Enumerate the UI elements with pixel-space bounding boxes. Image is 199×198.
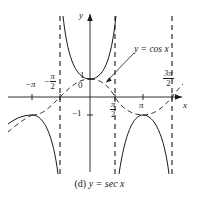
x-tick-label-pi: π [139, 101, 144, 110]
x-tick-label-neg-pi: −π [25, 80, 36, 89]
caption-prefix: (d) [74, 178, 86, 189]
caption-expression: y = sec x [89, 178, 125, 189]
x-tick-label-3pi-over-2: 3π2 [163, 69, 174, 88]
fraction-numerator: π [110, 100, 116, 110]
cos-curve-annotation: y = cos x [134, 45, 169, 55]
cos-curve-right [143, 84, 183, 115]
sec-branch-left [8, 115, 58, 174]
y-tick-label-one: 1 [80, 71, 85, 80]
y-axis-arrowhead [87, 14, 93, 21]
figure-caption: (d) y = sec x [0, 178, 199, 189]
minus-sign: − [44, 77, 49, 86]
fraction-numerator: π [50, 72, 56, 82]
y-axis-label: y [79, 11, 83, 20]
origin-label: 0 [78, 81, 83, 90]
x-tick-label-neg-pi-over-2: −π2 [44, 72, 56, 91]
sec-x-figure: y x 0 1 −1 −π −π2 π2 π 3π2 y = cos x (d)… [0, 0, 199, 198]
x-axis-arrowhead [175, 94, 182, 100]
sec-branch-center [63, 16, 116, 79]
annotation-arrowhead [106, 77, 112, 82]
y-tick-label-neg-one: −1 [72, 109, 82, 118]
x-axis-label: x [183, 101, 187, 110]
sec-branch-right [119, 115, 169, 174]
fraction-denominator: 2 [50, 82, 56, 91]
plot-canvas [0, 0, 199, 198]
fraction-denominator: 2 [110, 110, 116, 119]
x-tick-label-pi-over-2: π2 [110, 100, 116, 119]
annotation-leader-line [108, 53, 134, 80]
fraction-denominator: 2 [163, 79, 174, 88]
fraction-numerator: 3π [163, 69, 174, 79]
